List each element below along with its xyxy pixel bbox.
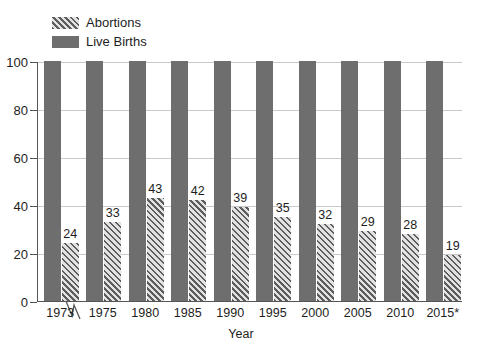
bar-abortions	[359, 231, 376, 301]
bar-group: 43	[129, 62, 164, 301]
bar-abortions	[317, 224, 334, 301]
bar-chart: 100 80 60 40 20 0 24334342393532292819 A…	[0, 0, 482, 349]
bar-group: 32	[299, 62, 334, 301]
bar-group: 33	[86, 62, 121, 301]
bar-value-label: 42	[189, 184, 206, 198]
bar-value-label: 28	[402, 218, 419, 232]
bar-group: 35	[256, 62, 291, 301]
y-tick-mark	[30, 302, 37, 303]
solid-swatch-icon	[52, 36, 79, 48]
y-tick-label: 60	[0, 151, 28, 166]
bar-abortions	[274, 217, 291, 301]
bar-group: 24	[44, 62, 79, 301]
bar-abortions	[189, 200, 206, 301]
bar-group: 29	[341, 62, 376, 301]
bar-group: 28	[384, 62, 419, 301]
legend-item-abortions: Abortions	[52, 13, 147, 32]
bar-live-births	[426, 61, 443, 301]
bar-abortions	[402, 234, 419, 301]
x-tick-label: 2015*	[415, 306, 471, 320]
bar-live-births	[44, 61, 61, 301]
hatch-swatch-icon	[52, 17, 79, 29]
bar-value-label: 43	[147, 182, 164, 196]
y-tick-label: 100	[0, 55, 28, 70]
bar-abortions	[232, 207, 249, 301]
y-tick-label: 40	[0, 199, 28, 214]
bar-abortions	[62, 243, 79, 301]
plot-area: 24334342393532292819	[37, 62, 462, 302]
y-tick-label: 80	[0, 103, 28, 118]
bar-abortions	[147, 198, 164, 301]
bar-live-births	[129, 61, 146, 301]
legend-label: Live Births	[86, 33, 147, 51]
bar-group: 42	[171, 62, 206, 301]
bar-value-label: 19	[444, 239, 461, 253]
legend-item-live-births: Live Births	[52, 32, 147, 51]
bar-live-births	[256, 61, 273, 301]
y-tick-mark	[30, 254, 37, 255]
bar-value-label: 24	[62, 227, 79, 241]
x-axis-title: Year	[0, 327, 482, 341]
y-tick-label: 20	[0, 247, 28, 262]
legend-label: Abortions	[86, 14, 141, 32]
bar-live-births	[214, 61, 231, 301]
bar-live-births	[86, 61, 103, 301]
legend: Abortions Live Births	[52, 13, 147, 51]
bar-abortions	[444, 255, 461, 301]
bar-live-births	[299, 61, 316, 301]
bar-abortions	[104, 222, 121, 301]
bar-value-label: 33	[104, 206, 121, 220]
y-tick-mark	[30, 206, 37, 207]
y-tick-mark	[30, 110, 37, 111]
y-tick-mark	[30, 62, 37, 63]
bar-live-births	[171, 61, 188, 301]
bar-live-births	[384, 61, 401, 301]
bar-group: 39	[214, 62, 249, 301]
bar-group: 19	[426, 62, 461, 301]
bar-value-label: 32	[317, 208, 334, 222]
bar-value-label: 29	[359, 215, 376, 229]
bar-value-label: 35	[274, 201, 291, 215]
bar-value-label: 39	[232, 191, 249, 205]
y-tick-label: 0	[0, 295, 28, 310]
y-tick-mark	[30, 158, 37, 159]
bar-live-births	[341, 61, 358, 301]
